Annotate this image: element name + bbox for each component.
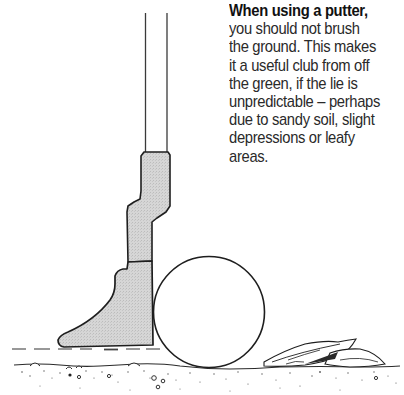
golf-ball [154,257,265,368]
putter-head [58,261,153,347]
soil-speckles [21,370,396,391]
leaf [264,339,385,367]
soil-pebbles [77,374,377,388]
putter-illustration [0,0,404,395]
putter-shaft [146,13,168,152]
dashed-reference-line [12,349,160,350]
putter-hosel [127,152,170,262]
